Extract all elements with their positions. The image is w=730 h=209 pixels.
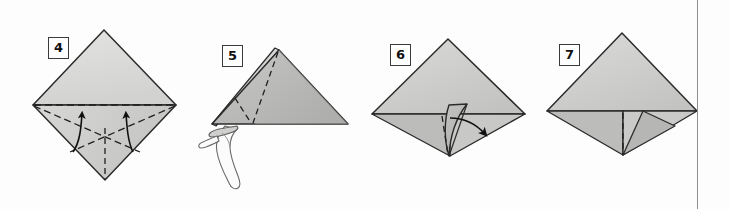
step-badge-4: 4: [48, 37, 69, 59]
step-badge-5: 5: [222, 45, 243, 67]
step-figure-6: 6: [370, 0, 545, 209]
diagram-page: 4: [0, 0, 730, 209]
hand-illustration: [199, 126, 240, 189]
step-figure-7: 7: [545, 0, 730, 209]
step-7-illustration: [545, 0, 730, 209]
step-badge-6: 6: [390, 44, 411, 66]
paper-lower-left-wedge: [372, 114, 450, 156]
hand-index-finger: [209, 126, 238, 137]
step-4-illustration: [0, 0, 195, 209]
step-5-illustration: [195, 0, 370, 209]
paper-lower-left-wedge: [547, 111, 623, 155]
step-badge-7: 7: [559, 44, 580, 66]
step-figure-4: 4: [0, 0, 195, 209]
step-figure-5: 5: [195, 0, 370, 209]
page-border-line: [697, 0, 698, 209]
step-6-illustration: [370, 0, 545, 209]
